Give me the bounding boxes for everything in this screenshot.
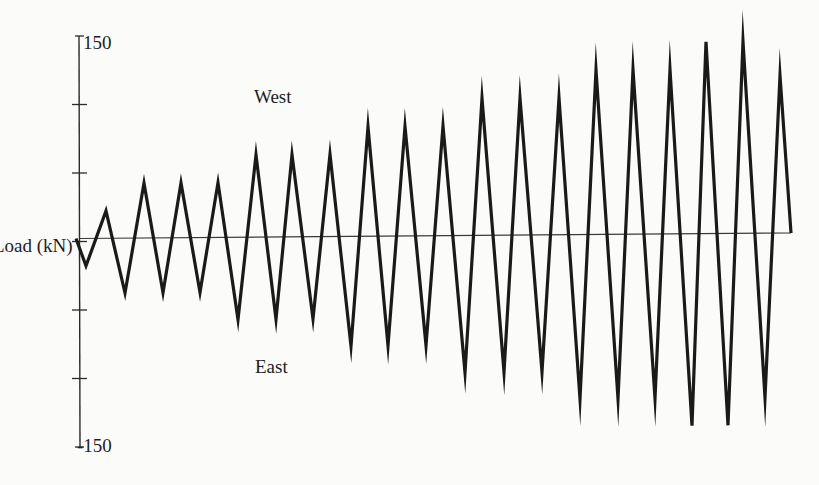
y-axis-title: Load (kN) (0, 236, 73, 255)
annotation-west: West (254, 87, 292, 106)
annotation-east: East (255, 357, 288, 376)
y-tick-label-bottom-text: -150 (77, 435, 112, 456)
load-history-chart (0, 0, 819, 485)
y-tick-label-bottom: -150 (77, 436, 112, 455)
y-tick-label-top: 150 (83, 33, 112, 52)
